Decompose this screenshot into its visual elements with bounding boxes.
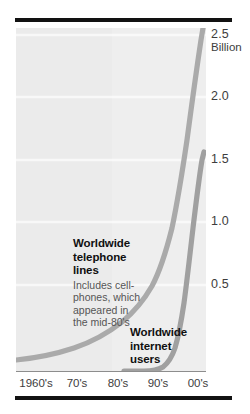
x-tick-label-00s: 00's (180, 377, 216, 390)
x-tick-label-80s: 80's (100, 377, 136, 390)
y-tick-label-1-5: 1.5 (211, 153, 229, 166)
annotation-internet-title: Worldwide internet users (130, 326, 200, 367)
annotation-telephone-title-line-1: Worldwide (73, 237, 130, 249)
annotation-telephone-subtitle-line-3: appeared in (73, 304, 128, 316)
annotation-telephone-lines: Worldwide telephone lines Includes cell-… (73, 237, 153, 329)
annotation-telephone-title: Worldwide telephone lines (73, 237, 153, 278)
annotation-telephone-subtitle-line-2: phones, which (73, 291, 140, 303)
top-rule-divider (15, 18, 232, 22)
x-axis-line (16, 371, 206, 372)
x-tick-label-1960s: 1960's (13, 377, 59, 390)
y-tick-label-1-0: 1.0 (211, 215, 229, 228)
annotation-telephone-subtitle-line-4: the mid-80's (73, 316, 130, 328)
bottom-rule-divider (15, 396, 232, 400)
chart-figure: 2.5 Billion 2.0 1.5 1.0 0.5 1960's 70's … (0, 0, 250, 414)
annotation-internet-title-line-1: Worldwide (130, 326, 187, 338)
annotation-telephone-subtitle-line-1: Includes cell- (73, 279, 134, 291)
annotation-telephone-title-line-2: telephone lines (73, 251, 126, 277)
y-tick-label-2-0: 2.0 (211, 90, 229, 103)
x-tick-label-90s: 90's (140, 377, 176, 390)
y-tick-label-0-5: 0.5 (211, 278, 229, 291)
x-tick-label-70s: 70's (59, 377, 95, 390)
annotation-internet-title-line-2: internet (130, 340, 171, 352)
annotation-internet-title-line-3: users (130, 353, 160, 365)
annotation-telephone-subtitle: Includes cell- phones, which appeared in… (73, 279, 153, 329)
y-tick-label-2-5: 2.5 (211, 28, 229, 41)
annotation-internet-users: Worldwide internet users (130, 326, 200, 367)
y-axis-unit-label: Billion (211, 41, 242, 54)
